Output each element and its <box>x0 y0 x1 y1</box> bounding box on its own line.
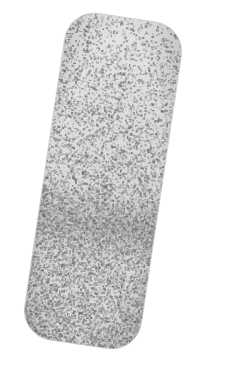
image-canvas: Speckled rounded-rectangle specimen on w… <box>0 0 228 374</box>
specimen-render <box>0 0 228 374</box>
